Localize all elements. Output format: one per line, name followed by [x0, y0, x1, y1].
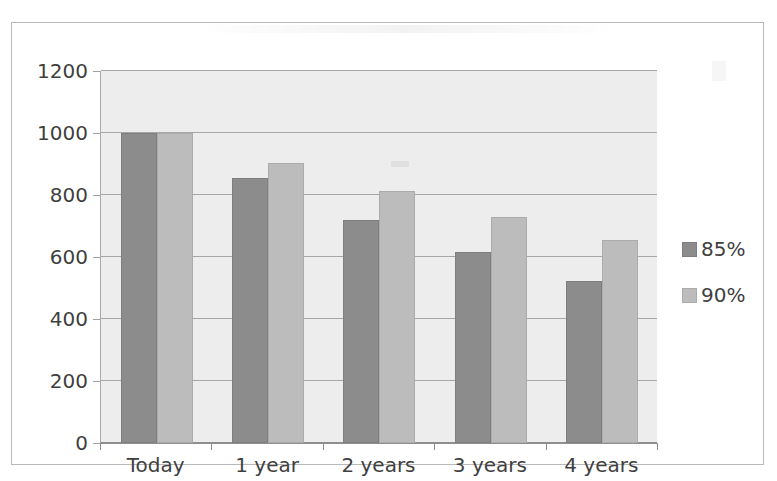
bar-90pct-3-years[interactable]: [491, 217, 527, 443]
x-tick-label: 1 year: [211, 455, 322, 475]
plot-area: [100, 71, 657, 443]
y-tick-mark: [93, 443, 100, 444]
y-tick-mark: [93, 133, 100, 134]
legend-item[interactable]: 85%: [682, 238, 772, 260]
y-tick-mark: [93, 195, 100, 196]
y-tick-label: 1000: [37, 123, 88, 143]
bar-85pct-1-year[interactable]: [232, 178, 268, 443]
legend-label: 90%: [701, 285, 745, 305]
bar-85pct-2-years[interactable]: [343, 220, 379, 443]
y-tick-label: 800: [50, 185, 88, 205]
x-tick-label: 4 years: [546, 455, 657, 475]
y-axis: 020040060080010001200: [12, 23, 88, 464]
x-tick-label: 2 years: [323, 455, 434, 475]
scan-artifact-right: [712, 61, 726, 81]
bar-group: [435, 71, 546, 443]
y-tick-mark: [93, 381, 100, 382]
y-tick-mark: [93, 319, 100, 320]
x-tick-label: Today: [100, 455, 211, 475]
bar-90pct-2-years[interactable]: [379, 191, 415, 443]
legend-label: 85%: [701, 239, 745, 259]
bar-85pct-3-years[interactable]: [455, 252, 491, 443]
y-tick-label: 1200: [37, 61, 88, 81]
y-tick-mark: [93, 71, 100, 72]
bar-90pct-1-year[interactable]: [268, 163, 304, 443]
x-tick-mark: [434, 443, 435, 450]
y-tick-label: 200: [50, 371, 88, 391]
y-tick-label: 600: [50, 247, 88, 267]
bar-group: [547, 71, 658, 443]
bar-85pct-4-years[interactable]: [566, 281, 602, 443]
x-tick-label: 3 years: [434, 455, 545, 475]
x-axis-line: [100, 443, 658, 444]
y-tick-label: 400: [50, 309, 88, 329]
legend-swatch-icon: [682, 242, 697, 257]
x-tick-mark: [323, 443, 324, 450]
x-tick-mark: [657, 443, 658, 450]
bar-group: [212, 71, 323, 443]
legend-swatch-icon: [682, 288, 697, 303]
chart-frame: 020040060080010001200 Today1 year2 years…: [11, 22, 764, 465]
bar-90pct-4-years[interactable]: [602, 240, 638, 443]
x-tick-mark: [546, 443, 547, 450]
y-tick-label: 0: [75, 433, 88, 453]
scan-artifact-top: [192, 25, 622, 33]
bar-90pct-Today[interactable]: [157, 133, 193, 443]
bar-group: [324, 71, 435, 443]
y-tick-mark: [93, 257, 100, 258]
legend-item[interactable]: 90%: [682, 284, 772, 306]
bar-85pct-Today[interactable]: [121, 133, 157, 443]
chart-legend: 85%90%: [682, 238, 772, 330]
bar-group: [101, 71, 212, 443]
x-tick-mark: [100, 443, 101, 450]
x-tick-mark: [211, 443, 212, 450]
